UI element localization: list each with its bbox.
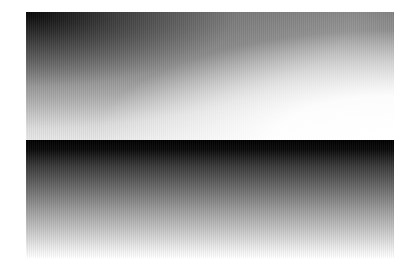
vertical-gradient-panel [26,140,394,258]
noise-texture [26,12,394,140]
diagonal-gradient-panel [26,12,394,140]
noise-texture [26,140,394,258]
